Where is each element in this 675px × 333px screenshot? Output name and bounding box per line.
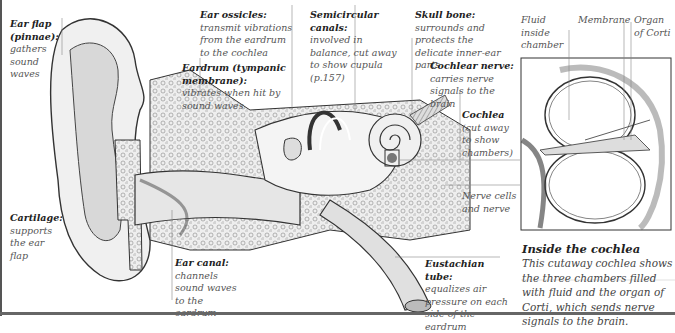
label-desc: carries nerve signals to the brain bbox=[430, 73, 495, 109]
label-desc: (cut away to show chambers) bbox=[462, 122, 513, 158]
label-cochlear-nerve: Cochlear nerve: carries nerve signals to… bbox=[430, 60, 515, 110]
inset-label-fluid: Fluid inside chamber bbox=[521, 14, 571, 52]
label-ear-flap: Ear flap (pinnae): gathers sound waves bbox=[10, 18, 62, 81]
label-title: Skull bone: bbox=[415, 9, 475, 20]
inset-caption-body: This cutaway cochlea shows the three cha… bbox=[522, 256, 675, 329]
label-cartilage: Cartilage: supports the ear flap bbox=[10, 212, 62, 262]
inset-label-organ-of-corti: Organ of Corti bbox=[634, 14, 674, 39]
label-ear-ossicles: Ear ossicles: transmit vibrations from t… bbox=[200, 9, 295, 59]
label-nerve-cells: Nerve cells and nerve bbox=[462, 190, 517, 215]
label-semicircular-canals: Semicircular canals: involved in balance… bbox=[310, 9, 402, 84]
inset-label-membrane: Membrane bbox=[578, 14, 626, 27]
label-eardrum: Eardrum (tympanic membrane): vibrates wh… bbox=[182, 62, 290, 112]
label-title: Semicircular canals: bbox=[310, 9, 402, 34]
label-desc: transmit vibrations from the eardrum to … bbox=[200, 22, 292, 58]
page-bottom-rule bbox=[0, 312, 675, 315]
label-desc: channels sound waves to the eardrum bbox=[175, 270, 237, 319]
label-title: Eardrum (tympanic membrane): bbox=[182, 62, 290, 87]
label-cochlea: Cochlea (cut away to show chambers) bbox=[462, 109, 520, 159]
label-title: Cochlea bbox=[462, 109, 520, 122]
label-title: Cartilage: bbox=[10, 212, 62, 225]
label-eustachian-tube: Eustachian tube: equalizes air pressure … bbox=[425, 258, 513, 333]
label-desc: gathers sound waves bbox=[10, 43, 47, 79]
label-title: Ear flap (pinnae): bbox=[10, 18, 62, 43]
inset-caption-title: Inside the cochlea bbox=[522, 242, 640, 256]
label-title: Ear canal: bbox=[175, 257, 240, 270]
label-desc: involved in balance, cut away to show cu… bbox=[310, 34, 397, 83]
label-ear-canal: Ear canal: channels sound waves to the e… bbox=[175, 257, 240, 320]
label-title: Cochlear nerve: bbox=[430, 60, 515, 73]
label-desc: vibrates when hit by sound waves bbox=[182, 87, 280, 111]
label-desc: equalizes air pressure on each side of t… bbox=[425, 283, 508, 332]
label-desc: supports the ear flap bbox=[10, 225, 52, 261]
label-desc: Nerve cells and nerve bbox=[462, 190, 516, 214]
label-title: Ear ossicles: bbox=[200, 9, 267, 20]
label-title: Eustachian tube: bbox=[425, 258, 513, 283]
